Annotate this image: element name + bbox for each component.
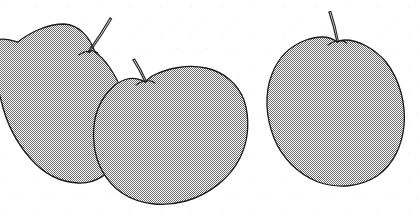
apples-illustration [0, 0, 418, 216]
apple-drawing-canvas: Three overlapping apples drawn in outlin… [0, 0, 418, 216]
